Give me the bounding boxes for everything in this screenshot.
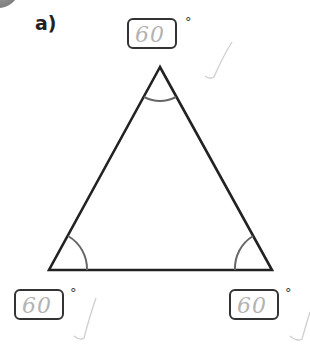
check-mark-bottom-right (290, 312, 310, 340)
answer-value-bottom-right: 60 (237, 293, 267, 318)
triangle (49, 67, 272, 270)
check-mark-bottom-left (74, 298, 96, 339)
angle-answer-box-bottom-right[interactable]: 60 (229, 289, 279, 320)
angle-answer-box-top[interactable]: 60 (127, 18, 177, 49)
degree-symbol-bottom-right: ° (285, 285, 292, 300)
degree-symbol-bottom-left: ° (70, 285, 77, 300)
check-mark-top (205, 42, 232, 78)
answer-value-top: 60 (135, 22, 165, 47)
angle-arc-top (144, 97, 176, 101)
angle-arc-bottom-left (68, 236, 87, 270)
angle-answer-box-bottom-left[interactable]: 60 (14, 289, 64, 320)
angle-arc-bottom-right (235, 236, 253, 270)
degree-symbol-top: ° (185, 14, 192, 29)
answer-value-bottom-left: 60 (22, 293, 52, 318)
